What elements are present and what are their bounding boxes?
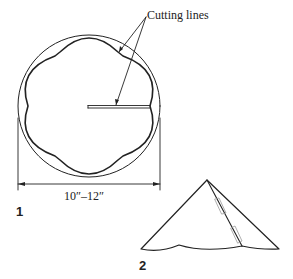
scalloped-flower: [25, 38, 153, 174]
figure-1-number: 1: [16, 204, 23, 219]
figure-2-number: 2: [139, 258, 146, 273]
outer-circle: [18, 35, 160, 177]
cutting-lines-label: Cutting lines: [147, 8, 209, 23]
radial-slit: [88, 106, 150, 109]
cone-outline: [141, 180, 279, 250]
dimension-line: [18, 118, 160, 190]
diameter-dimension-label: 10″–12″: [64, 189, 104, 204]
diagram-canvas: [0, 0, 293, 279]
callout-leaders: [116, 17, 146, 105]
